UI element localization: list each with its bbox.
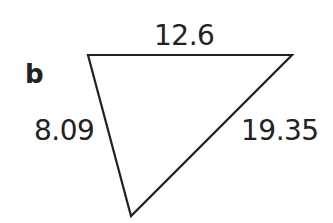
triangle-figure: b 12.6 8.09 19.35 bbox=[0, 0, 333, 223]
part-label: b bbox=[25, 61, 44, 87]
side-label-right: 19.35 bbox=[241, 117, 319, 145]
side-label-top: 12.6 bbox=[154, 22, 214, 50]
side-label-left: 8.09 bbox=[34, 117, 94, 145]
